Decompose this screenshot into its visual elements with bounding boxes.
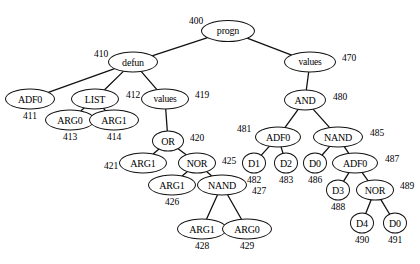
tree-node-number-482: 482 [247, 176, 261, 186]
tree-node-label: ARG0 [57, 115, 82, 125]
tree-node-label: ADF0 [343, 158, 367, 168]
tree-node-d0-486[interactable]: D0 [303, 153, 327, 174]
tree-node-label: ARG0 [234, 224, 259, 234]
tree-edge [344, 173, 349, 181]
tree-node-label: ARG1 [189, 224, 214, 234]
tree-node-arg0-429[interactable]: ARG0 [222, 219, 272, 240]
tree-node-adf0-411[interactable]: ADF0 [5, 89, 55, 110]
tree-node-progn-400[interactable]: progn [201, 20, 255, 42]
tree-node-arg1-421[interactable]: ARG1 [119, 153, 167, 174]
tree-node-number-410: 410 [94, 50, 108, 60]
tree-node-label: NOR [187, 158, 208, 168]
tree-node-label: D2 [280, 158, 292, 168]
tree-edge [166, 109, 168, 130]
tree-node-label: ARG1 [101, 115, 126, 125]
tree-node-number-411: 411 [23, 112, 37, 122]
tree-node-label: D1 [248, 158, 260, 168]
tree-node-adf0-487[interactable]: ADF0 [332, 153, 378, 174]
tree-node-label: values [298, 57, 321, 67]
tree-node-number-425: 425 [222, 157, 236, 167]
tree-node-number-489: 489 [400, 182, 414, 192]
tree-node-number-486: 486 [308, 176, 322, 186]
tree-node-label: ADF0 [18, 94, 42, 104]
tree-edge [381, 200, 389, 214]
tree-node-or-420[interactable]: OR [152, 131, 184, 152]
tree-node-label: D4 [356, 218, 368, 228]
tree-node-values-470[interactable]: values [284, 52, 336, 73]
tree-edge [306, 72, 308, 89]
tree-node-number-485: 485 [370, 129, 384, 139]
tree-node-d4-490[interactable]: D4 [350, 213, 374, 234]
tree-node-number-412: 412 [126, 91, 140, 101]
tree-node-number-483: 483 [279, 176, 293, 186]
tree-node-nand-485[interactable]: NAND [313, 127, 363, 148]
tree-node-d3-488[interactable]: D3 [326, 180, 350, 201]
tree-edge [105, 72, 123, 90]
tree-edge [322, 147, 329, 155]
tree-node-d2-483[interactable]: D2 [274, 153, 298, 174]
tree-edge [142, 72, 157, 89]
tree-edge [362, 173, 367, 180]
tree-node-label: defun [122, 57, 144, 67]
tree-edge [314, 110, 330, 128]
tree-node-label: NAND [208, 180, 236, 190]
tree-edge [228, 195, 241, 219]
tree-node-label: AND [294, 95, 315, 105]
tree-node-label: NOR [365, 185, 386, 195]
tree-node-d1-482[interactable]: D1 [242, 153, 266, 174]
tree-node-number-491: 491 [388, 236, 402, 246]
tree-node-number-426: 426 [165, 198, 179, 208]
tree-edge [366, 200, 371, 213]
tree-node-label: NAND [324, 132, 352, 142]
tree-node-label: OR [161, 136, 175, 146]
tree-node-values-419[interactable]: values [141, 89, 189, 110]
tree-edge [248, 38, 291, 54]
tree-node-arg0-413[interactable]: ARG0 [45, 110, 95, 131]
tree-node-label: D0 [389, 218, 401, 228]
tree-node-list-412[interactable]: LIST [71, 89, 119, 110]
tree-edge [285, 110, 298, 127]
tree-node-defun-410[interactable]: defun [108, 52, 158, 73]
tree-node-number-429: 429 [240, 242, 254, 252]
tree-node-d0-491[interactable]: D0 [383, 213, 407, 234]
tree-node-number-487: 487 [385, 155, 399, 165]
tree-node-number-413: 413 [63, 133, 77, 143]
tree-node-and-480[interactable]: AND [284, 90, 326, 111]
tree-node-label: values [153, 94, 176, 104]
tree-node-number-480: 480 [333, 93, 347, 103]
tree-node-number-427: 427 [252, 187, 266, 197]
tree-node-label: progn [217, 26, 239, 36]
tree-node-number-488: 488 [331, 203, 345, 213]
tree-node-label: ARG1 [159, 180, 184, 190]
tree-node-nor-489[interactable]: NOR [356, 180, 394, 201]
tree-node-label: D0 [309, 158, 321, 168]
parse-tree-diagram: progndefunvaluesADF0LISTvaluesANDARG0ARG… [0, 0, 420, 264]
tree-node-number-414: 414 [107, 133, 121, 143]
tree-node-number-420: 420 [190, 134, 204, 144]
tree-node-label: LIST [85, 94, 105, 104]
tree-node-label: ADF0 [266, 132, 290, 142]
tree-node-label: ARG1 [130, 158, 155, 168]
tree-node-number-490: 490 [355, 236, 369, 246]
tree-edge [262, 147, 270, 155]
tree-node-arg1-426[interactable]: ARG1 [148, 175, 196, 196]
tree-node-arg1-428[interactable]: ARG1 [177, 219, 227, 240]
tree-node-arg1-414[interactable]: ARG1 [89, 110, 139, 131]
tree-node-label: D3 [332, 185, 344, 195]
tree-node-number-421: 421 [104, 162, 118, 172]
tree-node-number-428: 428 [195, 242, 209, 252]
tree-node-number-400: 400 [189, 17, 203, 27]
tree-node-nor-425[interactable]: NOR [178, 153, 216, 174]
tree-edge [207, 195, 218, 218]
tree-edge [153, 38, 207, 56]
tree-node-nand-427[interactable]: NAND [197, 175, 247, 196]
tree-node-number-481: 481 [237, 125, 251, 135]
tree-node-number-470: 470 [342, 54, 356, 64]
tree-node-number-419: 419 [195, 91, 209, 101]
tree-node-adf0-481[interactable]: ADF0 [255, 127, 301, 148]
